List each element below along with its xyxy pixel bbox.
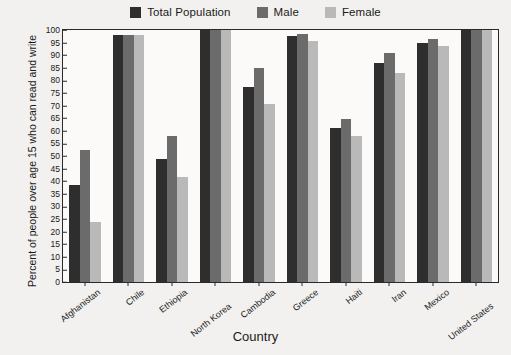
y-axis-tick-label: 65 xyxy=(43,114,63,123)
bar-total-population xyxy=(200,30,211,282)
y-axis-tick-label: 55 xyxy=(43,139,63,148)
y-axis-tick-label: 5 xyxy=(43,265,63,274)
y-axis-tick-mark xyxy=(63,269,67,270)
bar-female xyxy=(395,73,406,282)
bar-group xyxy=(324,30,368,282)
y-axis-tick-label: 90 xyxy=(43,51,63,60)
bar-male xyxy=(341,119,352,282)
bar-total-population xyxy=(69,185,80,282)
bar-female xyxy=(438,46,449,282)
x-axis-tick-mark xyxy=(215,282,216,286)
bar-female xyxy=(134,35,145,282)
bar-total-population xyxy=(113,35,124,282)
y-axis-tick: 80 xyxy=(43,76,63,85)
x-axis-tick-label: Iran xyxy=(390,287,408,304)
bar-male xyxy=(428,39,439,282)
y-axis-tick-mark xyxy=(63,244,67,245)
bar-group xyxy=(194,30,238,282)
y-axis-tick-mark xyxy=(63,219,67,220)
y-axis-tick-mark xyxy=(63,194,67,195)
bar-total-population xyxy=(461,30,472,282)
x-axis-tick-mark xyxy=(302,282,303,286)
bar-group xyxy=(455,30,499,282)
bar-female xyxy=(351,136,362,282)
y-axis-tick: 60 xyxy=(43,127,63,136)
y-axis-tick-label: 20 xyxy=(43,227,63,236)
bar-female xyxy=(482,30,493,282)
bar-group xyxy=(368,30,412,282)
plot-area: 0510152025303540455055606570758085909510… xyxy=(62,29,499,283)
y-axis-tick: 5 xyxy=(43,265,63,274)
y-axis-tick: 70 xyxy=(43,101,63,110)
y-axis-tick-mark xyxy=(63,143,67,144)
x-axis-tick-label: Ethiopia xyxy=(158,287,190,315)
x-axis-tick-label: Cambodia xyxy=(238,287,276,320)
legend-item-female: Female xyxy=(325,6,381,18)
legend-swatch-icon xyxy=(325,7,336,18)
bar-group xyxy=(107,30,151,282)
y-axis-tick: 20 xyxy=(43,227,63,236)
y-axis-tick-mark xyxy=(63,30,67,31)
y-axis-tick-mark xyxy=(63,80,67,81)
y-axis-tick-mark xyxy=(63,55,67,56)
y-axis-tick-mark xyxy=(63,106,67,107)
bar-male xyxy=(471,30,482,282)
chart-legend: Total PopulationMaleFemale xyxy=(0,6,511,18)
y-axis-tick-mark xyxy=(63,282,67,283)
bar-total-population xyxy=(417,43,428,282)
literacy-bar-chart: Total PopulationMaleFemale Percent of pe… xyxy=(0,0,511,355)
bar-male xyxy=(297,34,308,282)
bar-male xyxy=(167,136,178,282)
x-axis-tick-label: Greece xyxy=(291,287,320,313)
y-axis-tick-label: 15 xyxy=(43,240,63,249)
y-axis-tick-mark xyxy=(63,131,67,132)
bar-group xyxy=(63,30,107,282)
y-axis-tick-label: 25 xyxy=(43,215,63,224)
bar-male xyxy=(254,68,265,282)
y-axis-tick: 95 xyxy=(43,38,63,47)
y-axis-tick-mark xyxy=(63,257,67,258)
y-axis-tick-label: 100 xyxy=(43,26,63,35)
y-axis-tick-mark xyxy=(63,93,67,94)
bar-total-population xyxy=(156,159,167,282)
bar-total-population xyxy=(287,36,298,282)
bar-female xyxy=(221,30,232,282)
y-axis-tick-mark xyxy=(63,156,67,157)
y-axis-tick: 45 xyxy=(43,164,63,173)
bar-female xyxy=(264,104,275,282)
y-axis-tick: 10 xyxy=(43,253,63,262)
y-axis-tick: 35 xyxy=(43,190,63,199)
y-axis-tick: 15 xyxy=(43,240,63,249)
x-axis-tick-mark xyxy=(171,282,172,286)
y-axis-tick-mark xyxy=(63,206,67,207)
y-axis-tick-mark xyxy=(63,232,67,233)
y-axis-tick: 100 xyxy=(43,26,63,35)
plot-inner: 0510152025303540455055606570758085909510… xyxy=(63,30,498,282)
y-axis-tick-label: 50 xyxy=(43,152,63,161)
bar-female xyxy=(90,222,101,282)
y-axis-tick-label: 80 xyxy=(43,76,63,85)
bar-male xyxy=(210,30,221,282)
y-axis-tick-mark xyxy=(63,43,67,44)
legend-swatch-icon xyxy=(257,7,268,18)
y-axis-tick: 75 xyxy=(43,89,63,98)
legend-item-total-population: Total Population xyxy=(130,6,230,18)
y-axis-tick-label: 70 xyxy=(43,101,63,110)
y-axis-tick: 85 xyxy=(43,64,63,73)
y-axis-tick: 90 xyxy=(43,51,63,60)
x-axis-tick-mark xyxy=(258,282,259,286)
y-axis-tick: 55 xyxy=(43,139,63,148)
x-axis-tick-mark xyxy=(128,282,129,286)
y-axis-tick-mark xyxy=(63,118,67,119)
legend-item-male: Male xyxy=(257,6,299,18)
y-axis-tick-label: 10 xyxy=(43,253,63,262)
bar-total-population xyxy=(243,87,254,282)
y-axis-tick-mark xyxy=(63,169,67,170)
x-axis-tick-mark xyxy=(84,282,85,286)
y-axis-tick-label: 60 xyxy=(43,127,63,136)
y-axis-tick-label: 45 xyxy=(43,164,63,173)
x-axis-tick-mark xyxy=(476,282,477,286)
legend-label: Female xyxy=(342,6,381,18)
x-axis-tick-label: Afghanistan xyxy=(58,287,102,324)
x-axis-tick-label: Haiti xyxy=(344,287,364,306)
